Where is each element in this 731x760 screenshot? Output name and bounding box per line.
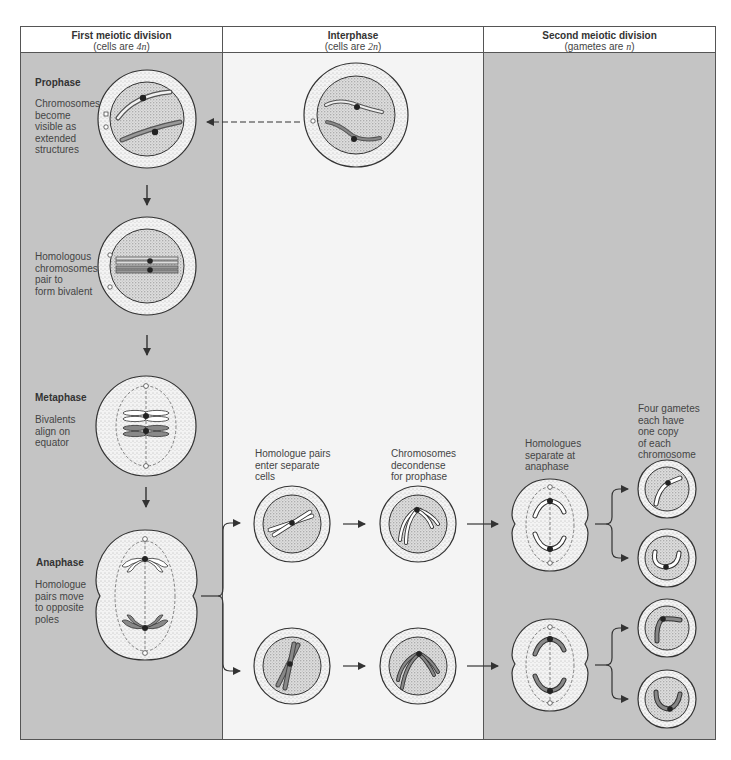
text-line: Four gametes: [638, 403, 700, 415]
text-line: chromosomes: [35, 263, 98, 275]
second-anaphase-cell-top: [512, 479, 588, 571]
text-line: each have: [638, 415, 700, 427]
text-line: extended: [35, 133, 100, 145]
metaphase-description: Bivalents align on equator: [35, 414, 76, 449]
interphase-cell-top-2: [380, 486, 456, 562]
enter-cells-label: Homologue pairs enter separate cells: [255, 448, 331, 483]
pairing-description: Homologous chromosomes pair to form biva…: [35, 251, 98, 297]
stage-title: Metaphase: [35, 392, 87, 403]
meiosis-artwork: [0, 0, 731, 760]
text-line: Chromosomes: [35, 98, 100, 110]
anaphase-label: Anaphase: [36, 557, 84, 569]
gamete-cell-3: [638, 599, 696, 657]
homologues-separate-label: Homologues separate at anaphase: [525, 438, 581, 473]
text-line: cells: [255, 471, 331, 483]
text-line: enter separate: [255, 460, 331, 472]
stage-title: Prophase: [35, 77, 81, 88]
text-line: visible as: [35, 121, 100, 133]
gamete-cell-4: [638, 670, 696, 728]
text-line: align on: [35, 426, 76, 438]
text-line: anaphase: [525, 461, 581, 473]
interphase-cell-bottom-1: [254, 628, 330, 704]
split-brace-1: [201, 523, 240, 671]
split-brace-3: [595, 628, 628, 699]
interphase-cell-top-1: [254, 486, 330, 562]
decondense-label: Chromosomes decondense for prophase: [391, 448, 456, 483]
text-line: structures: [35, 144, 100, 156]
prophase-cell: [98, 70, 196, 168]
bivalent-cell: [98, 217, 196, 315]
text-line: equator: [35, 437, 76, 449]
anaphase-cell: [96, 530, 197, 660]
text-line: Homologue pairs: [255, 448, 331, 460]
interphase-cell: [304, 63, 408, 167]
text-line: Bivalents: [35, 414, 76, 426]
gamete-cell-2: [638, 529, 696, 587]
text-line: pair to: [35, 274, 98, 286]
text-line: decondense: [391, 460, 456, 472]
text-line: pairs move: [35, 591, 86, 603]
four-gametes-label: Four gametes each have one copy of each …: [638, 403, 700, 461]
metaphase-cell: [96, 376, 196, 476]
text-line: Chromosomes: [391, 448, 456, 460]
text-line: poles: [35, 614, 86, 626]
anaphase-description: Homologue pairs move to opposite poles: [35, 579, 86, 625]
second-anaphase-cell-bottom: [512, 619, 588, 711]
text-line: separate at: [525, 450, 581, 462]
text-line: Homologues: [525, 438, 581, 450]
split-brace-2: [595, 489, 628, 558]
gamete-cell-1: [638, 460, 696, 518]
metaphase-label: Metaphase: [35, 392, 87, 404]
stage-title: Anaphase: [36, 557, 84, 568]
text-line: form bivalent: [35, 286, 98, 298]
interphase-cell-bottom-2: [380, 628, 456, 704]
prophase-description: Chromosomes become visible as extended s…: [35, 98, 100, 156]
text-line: become: [35, 110, 100, 122]
text-line: one copy: [638, 426, 700, 438]
prophase-label: Prophase: [35, 77, 81, 89]
text-line: for prophase: [391, 471, 456, 483]
text-line: chromosome: [638, 449, 700, 461]
text-line: to opposite: [35, 602, 86, 614]
text-line: of each: [638, 438, 700, 450]
text-line: Homologous: [35, 251, 98, 263]
text-line: Homologue: [35, 579, 86, 591]
